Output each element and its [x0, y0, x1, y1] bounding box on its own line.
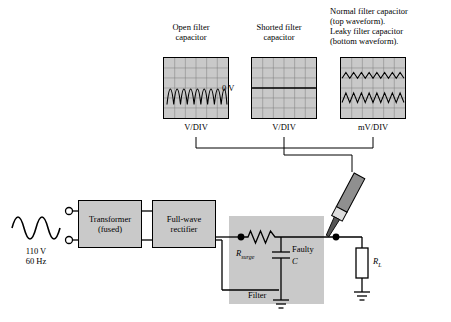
resistor-label-rsurge: Rsurge [236, 248, 254, 262]
rl-subscript: L [378, 262, 381, 268]
oscilloscope-probe[interactable] [0, 0, 451, 322]
capacitor-label-symbol: C [292, 256, 298, 266]
rsurge-subscript: surge [241, 254, 254, 260]
capacitor-label-line1: Faulty [292, 244, 314, 254]
load-resistor-label: RL [373, 256, 382, 270]
diagram-canvas: Open filter capacitor Shorted filter cap… [0, 0, 451, 322]
